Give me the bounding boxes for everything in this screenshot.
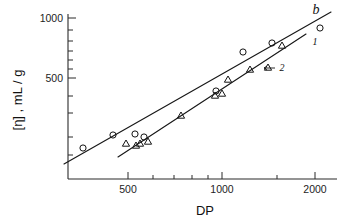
data-point-triangle <box>278 42 285 48</box>
x-axis-title: DP <box>196 203 214 218</box>
series-2-markers <box>122 42 285 148</box>
series-1-markers <box>80 25 323 151</box>
y-tick-label-500: 500 <box>45 72 63 84</box>
data-point-triangle <box>224 76 231 82</box>
log-log-plot: 1000 500 500 1000 2000 DP [η] , mL / g b <box>0 0 339 221</box>
curve-1-label: 1 <box>313 36 318 47</box>
data-point-circle <box>240 49 246 55</box>
x-tick-label-500: 500 <box>119 183 137 195</box>
axes <box>68 14 337 179</box>
x-axis-minor-ticks <box>153 175 277 179</box>
y-axis-minor-ticks <box>68 30 73 155</box>
x-tick-label-1000: 1000 <box>210 183 234 195</box>
x-tick-label-2000: 2000 <box>303 183 327 195</box>
line-2-annotation: 2 <box>264 62 285 73</box>
data-point-triangle <box>122 140 129 146</box>
data-point-circle <box>132 131 138 137</box>
figure-panel-b: 1000 500 500 1000 2000 DP [η] , mL / g b <box>0 0 339 221</box>
panel-label-b: b <box>313 2 320 17</box>
data-point-circle <box>317 25 323 31</box>
y-tick-label-1000: 1000 <box>40 12 64 24</box>
x-axis-major-ticks <box>128 172 315 179</box>
y-axis-title: [η] , mL / g <box>10 70 25 131</box>
fit-line-1 <box>64 12 331 164</box>
curve-2-label: 2 <box>280 62 285 73</box>
fit-lines <box>64 12 331 164</box>
data-point-circle <box>141 134 147 140</box>
data-point-circle <box>80 145 86 151</box>
